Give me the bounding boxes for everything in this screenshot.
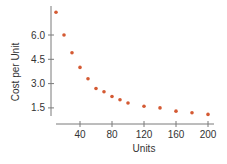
x-tick-label: 200 [200,129,217,140]
data-points [54,11,210,117]
x-tick-label: 120 [136,129,153,140]
x-axis-title: Units [133,143,156,154]
x-axis: 4080120160200 [56,121,217,140]
data-point [102,90,106,94]
data-point [94,87,98,91]
data-point [78,66,82,70]
y-tick-label: 3.0 [31,78,45,89]
data-point [110,95,114,99]
x-tick-label: 40 [74,129,86,140]
data-point [118,98,122,102]
data-point [142,104,146,108]
y-tick-label: 1.5 [31,102,45,113]
y-tick-label: 6.0 [31,30,45,41]
data-point [190,111,194,115]
scatter-chart: 1.53.04.56.0 4080120160200 Units Cost pe… [0,0,227,164]
data-point [54,11,58,15]
data-point [126,101,130,105]
data-point [158,106,162,110]
data-point [70,51,74,55]
data-point [62,33,66,37]
data-point [206,113,210,117]
x-tick-label: 80 [106,129,118,140]
y-tick-label: 4.5 [31,54,45,65]
data-point [174,109,178,113]
y-axis: 1.53.04.56.0 [31,6,54,116]
data-point [86,77,90,81]
y-axis-title: Cost per Unit [10,43,21,102]
x-tick-label: 160 [168,129,185,140]
